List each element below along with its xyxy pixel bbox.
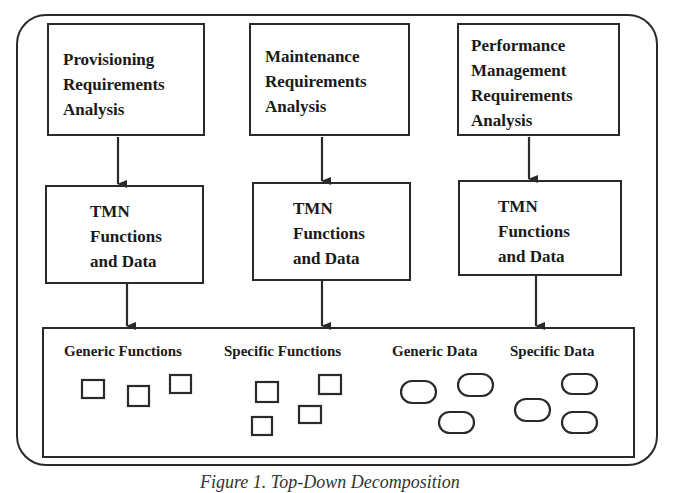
function-square-icon [256,382,278,402]
data-oval-icon [458,374,493,396]
data-oval-icon [562,412,597,433]
function-square-icon [170,375,191,393]
data-oval-icon [439,412,474,433]
figure-caption: Figure 1. Top-Down Decomposition [200,472,460,493]
function-square-icon [319,375,341,394]
function-square-icon [82,380,104,398]
data-oval-icon [515,399,550,421]
data-oval-icon [562,374,597,394]
function-square-icon [252,417,272,435]
data-oval-icon [401,381,436,403]
function-square-icon [299,406,321,423]
function-square-icon [128,386,149,406]
